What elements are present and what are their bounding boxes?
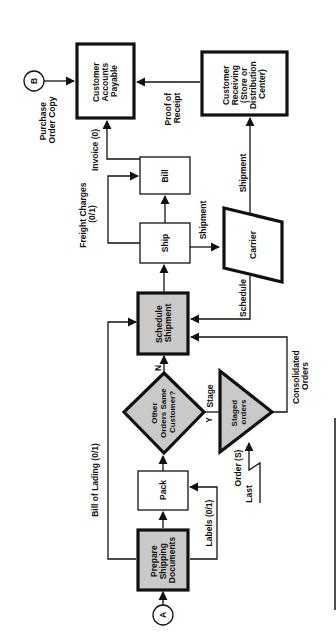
edge-label-bill-of-lading: Bill of Lading (0/1)	[90, 443, 100, 517]
edge-label-labels: Labels (0/1)	[204, 499, 214, 546]
edge-label-consolidated-line2: Orders	[300, 362, 310, 390]
decision-label-line1: Other	[150, 402, 159, 423]
edge-bill-of-lading	[108, 322, 136, 559]
flowchart-canvas: A Prepare Shipping Documents Bill of Lad…	[0, 0, 336, 637]
staged-label-line2: orders	[239, 399, 248, 424]
svg-text:Purchase Order Copy: Purchase Order Copy	[38, 96, 57, 143]
edge-label-shipment-carrier-receiving: Shipment	[238, 153, 248, 192]
edge-freight-charges	[108, 176, 140, 243]
pack-label: Pack	[158, 480, 168, 500]
carrier-label: Carrier	[248, 230, 258, 259]
decision-label-line3: Customer?	[168, 391, 177, 433]
edge-label-freight-line2: (0/1)	[87, 205, 97, 223]
svg-text:Prepare Shipping D: Prepare Shipping Documents	[149, 537, 177, 584]
node-decision-other-orders: Other Orders Same Customer?	[124, 373, 204, 453]
edge-label-schedule: Schedule	[238, 279, 248, 317]
staged-label-line1: Staged	[230, 400, 239, 427]
edge-label-invoice: Invoice (0)	[90, 129, 100, 171]
prepare-label-line3: Documents	[167, 537, 177, 584]
edge-label-yes: Y	[204, 417, 214, 423]
edge-label-po-line2: Order Copy	[47, 96, 57, 143]
edge-label-proof-line2: Receipt	[172, 92, 182, 123]
decision-label-line2: Orders Same	[159, 388, 168, 438]
connector-b-label: B	[29, 78, 39, 84]
bill-label: Bill	[160, 169, 170, 182]
node-customer-receiving: Customer Receiving (Store or Distributio…	[202, 52, 287, 115]
node-bill: Bill	[140, 157, 190, 194]
connector-a-label: A	[158, 612, 168, 618]
svg-text:Freight Charges (0/1): Freight Charges (0/1)	[78, 180, 97, 248]
node-staged-orders: Staged orders	[220, 371, 272, 452]
payable-label-line3: Payable	[109, 65, 119, 97]
svg-text:Consolidated Orders: Consolidated Orders	[291, 348, 310, 404]
svg-text:Proof of Receipt: Proof of Receipt	[163, 91, 182, 126]
edge-label-no: N	[153, 365, 163, 371]
edge-invoice	[107, 121, 140, 159]
svg-text:Schedule Shipment: Schedule Shipment	[154, 303, 173, 343]
svg-text:Staged orders: Staged orders	[230, 398, 248, 427]
node-prepare-shipping-documents: Prepare Shipping Documents	[138, 530, 188, 590]
edge-label-order-s: Order (S)	[233, 449, 243, 486]
svg-text:Customer Accounts: Customer Accounts Payable	[91, 60, 119, 102]
connector-b: B	[24, 71, 44, 91]
edge-label-stage: Stage	[205, 384, 215, 407]
node-ship: Ship	[140, 223, 190, 263]
node-pack: Pack	[138, 471, 188, 510]
edge-label-shipment-ship-carrier: Shipment	[198, 200, 208, 239]
node-customer-accounts-payable: Customer Accounts Payable	[77, 44, 134, 118]
receiving-label-line5: Center)	[257, 69, 267, 99]
edge-label-last: Last	[244, 485, 254, 503]
node-carrier: Carrier	[224, 208, 282, 282]
schedule-label-line2: Shipment	[163, 303, 173, 342]
connector-a: A	[153, 605, 173, 625]
node-schedule-shipment: Schedule Shipment	[138, 293, 188, 354]
ship-label: Ship	[160, 234, 170, 252]
